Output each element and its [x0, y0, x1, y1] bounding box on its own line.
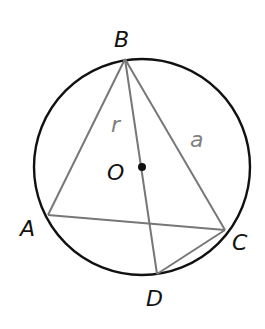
segment-CD [157, 230, 225, 274]
center-point-dot [138, 163, 146, 171]
label-center-O: O [107, 160, 124, 185]
label-point-B: B [114, 27, 129, 52]
geometry-diagram: B A C D O r a [0, 0, 265, 329]
segment-BA [48, 59, 125, 215]
segment-BC [125, 59, 225, 230]
label-point-A: A [18, 216, 35, 241]
label-segment-a: a [190, 127, 203, 152]
label-segment-r: r [111, 112, 122, 137]
segment-AC [48, 215, 225, 230]
label-point-D: D [146, 286, 163, 311]
label-point-C: C [232, 230, 248, 255]
